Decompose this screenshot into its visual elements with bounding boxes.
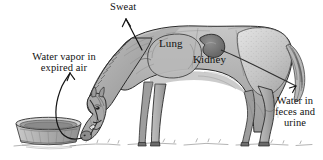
label-water-vapor-line2: expired air — [41, 62, 87, 73]
label-feces-line3: urine — [284, 117, 306, 128]
label-water-vapor-line1: Water vapor in — [32, 51, 96, 62]
horse-illustration — [0, 0, 323, 160]
water-trough — [16, 117, 81, 149]
label-water-feces-urine: Water infeces andurine — [268, 96, 322, 129]
water-loss-figure: Sweat Water vapor inexpired air Lung Kid… — [0, 0, 323, 160]
label-feces-line1: Water in — [277, 95, 313, 106]
label-sweat: Sweat — [110, 2, 136, 13]
label-feces-line2: feces and — [275, 106, 315, 117]
trough-shadow — [22, 145, 76, 149]
label-lung: Lung — [159, 38, 183, 49]
label-water-vapor: Water vapor inexpired air — [22, 52, 106, 74]
label-kidney: Kidney — [193, 54, 226, 65]
